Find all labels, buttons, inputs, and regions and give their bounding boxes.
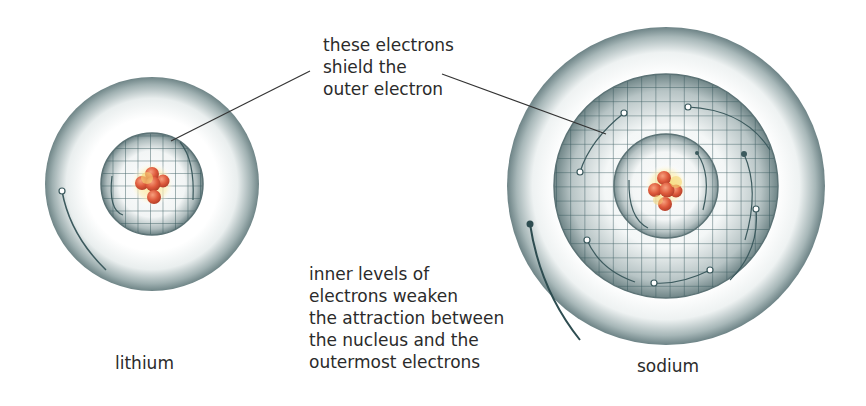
shielding-callout-label: these electrons shield the outer electro… <box>323 34 454 100</box>
sodium-label: sodium <box>637 355 699 377</box>
weaken-attraction-note: inner levels of electrons weaken the att… <box>309 263 504 373</box>
sodium-outer-electron <box>527 221 534 228</box>
lithium-atom <box>45 77 259 291</box>
lithium-outer-electron <box>59 188 65 194</box>
lithium-label: lithium <box>115 352 174 374</box>
sodium-atom <box>507 27 825 345</box>
